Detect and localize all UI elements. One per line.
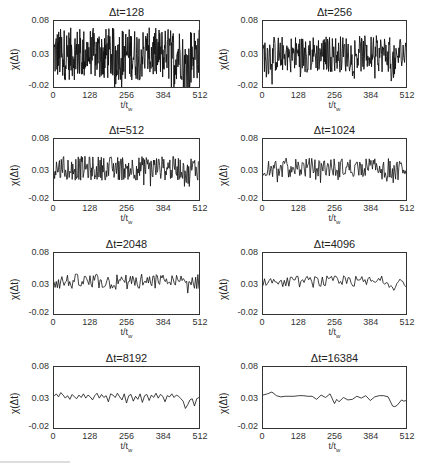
- x-tick-label: 384: [148, 90, 178, 100]
- y-tick-label: -0.02: [15, 307, 49, 317]
- y-tick-label: -0.02: [15, 193, 49, 203]
- y-axis-label: χ(Δt): [9, 278, 20, 299]
- panel-title: Δt=4096: [262, 238, 407, 250]
- y-axis-label: χ(Δt): [218, 164, 229, 185]
- plot-area: [262, 366, 407, 429]
- x-tick-label: 512: [185, 90, 215, 100]
- y-tick-label: 0.08: [224, 361, 258, 371]
- x-tick-label: 0: [38, 203, 68, 213]
- x-tick-label: 0: [38, 317, 68, 327]
- x-tick-label: 384: [356, 317, 386, 327]
- x-tick-label: 0: [38, 90, 68, 100]
- data-line: [54, 21, 199, 87]
- data-line: [54, 367, 199, 428]
- x-tick-label: 256: [320, 90, 350, 100]
- y-axis-label: χ(Δt): [9, 49, 20, 70]
- plot-area: [53, 366, 200, 429]
- x-tick-label: 256: [320, 317, 350, 327]
- y-tick-label: -0.02: [224, 307, 258, 317]
- x-tick-label: 128: [283, 203, 313, 213]
- panel-title: Δt=512: [53, 124, 200, 136]
- plot-area: [53, 138, 200, 201]
- y-tick-label: -0.02: [224, 421, 258, 431]
- y-tick-label: 0.03: [224, 49, 258, 59]
- x-axis-label: t/tw: [107, 213, 147, 225]
- x-axis-label: t/tw: [315, 100, 355, 112]
- plot-area: [53, 20, 200, 88]
- x-tick-label: 384: [356, 431, 386, 441]
- data-line: [54, 253, 199, 314]
- y-axis-label: χ(Δt): [218, 278, 229, 299]
- footer-divider: [0, 461, 70, 463]
- y-axis-label: χ(Δt): [9, 392, 20, 413]
- x-axis-label: t/tw: [107, 100, 147, 112]
- y-tick-label: -0.02: [224, 193, 258, 203]
- panel-title: Δt=256: [262, 6, 407, 18]
- x-tick-label: 128: [283, 431, 313, 441]
- data-line: [263, 253, 406, 314]
- x-tick-label: 0: [247, 317, 277, 327]
- x-tick-label: 512: [185, 317, 215, 327]
- x-tick-label: 512: [392, 431, 422, 441]
- x-tick-label: 384: [148, 317, 178, 327]
- data-line: [263, 139, 406, 200]
- x-tick-label: 512: [185, 203, 215, 213]
- panel-title: Δt=16384: [262, 352, 407, 364]
- plot-area: [262, 138, 407, 201]
- x-axis-label: t/tw: [107, 327, 147, 339]
- y-tick-label: 0.08: [15, 15, 49, 25]
- x-axis-label: t/tw: [107, 441, 147, 453]
- plot-area: [262, 20, 407, 88]
- y-axis-label: χ(Δt): [218, 49, 229, 70]
- y-tick-label: -0.02: [15, 80, 49, 90]
- x-tick-label: 512: [392, 90, 422, 100]
- y-tick-label: 0.03: [15, 165, 49, 175]
- y-tick-label: 0.08: [224, 247, 258, 257]
- x-tick-label: 256: [112, 203, 142, 213]
- x-tick-label: 128: [75, 431, 105, 441]
- x-tick-label: 128: [75, 203, 105, 213]
- y-tick-label: 0.03: [224, 165, 258, 175]
- y-tick-label: 0.03: [224, 393, 258, 403]
- x-tick-label: 512: [392, 317, 422, 327]
- panel-title: Δt=1024: [262, 124, 407, 136]
- x-tick-label: 128: [283, 317, 313, 327]
- panel-title: Δt=8192: [53, 352, 200, 364]
- x-tick-label: 384: [356, 203, 386, 213]
- y-tick-label: 0.03: [224, 279, 258, 289]
- x-tick-label: 256: [320, 431, 350, 441]
- x-tick-label: 384: [148, 203, 178, 213]
- data-line: [263, 367, 406, 428]
- x-tick-label: 256: [112, 90, 142, 100]
- y-axis-label: χ(Δt): [9, 164, 20, 185]
- y-tick-label: 0.08: [15, 133, 49, 143]
- plot-area: [262, 252, 407, 315]
- data-line: [54, 139, 199, 200]
- x-axis-label: t/tw: [315, 327, 355, 339]
- y-tick-label: 0.08: [15, 361, 49, 371]
- x-tick-label: 0: [247, 203, 277, 213]
- x-tick-label: 512: [185, 431, 215, 441]
- y-tick-label: 0.08: [224, 133, 258, 143]
- y-tick-label: 0.03: [15, 279, 49, 289]
- x-tick-label: 384: [356, 90, 386, 100]
- x-tick-label: 256: [112, 317, 142, 327]
- x-axis-label: t/tw: [315, 213, 355, 225]
- x-tick-label: 384: [148, 431, 178, 441]
- panel-title: Δt=128: [53, 6, 200, 18]
- x-tick-label: 256: [320, 203, 350, 213]
- x-tick-label: 128: [75, 90, 105, 100]
- plot-area: [53, 252, 200, 315]
- y-tick-label: 0.03: [15, 49, 49, 59]
- x-tick-label: 128: [75, 317, 105, 327]
- y-tick-label: 0.03: [15, 393, 49, 403]
- y-tick-label: 0.08: [15, 247, 49, 257]
- x-tick-label: 0: [247, 431, 277, 441]
- x-axis-label: t/tw: [315, 441, 355, 453]
- y-axis-label: χ(Δt): [218, 392, 229, 413]
- panel-title: Δt=2048: [53, 238, 200, 250]
- x-tick-label: 128: [283, 90, 313, 100]
- y-tick-label: -0.02: [224, 80, 258, 90]
- x-tick-label: 0: [247, 90, 277, 100]
- x-tick-label: 0: [38, 431, 68, 441]
